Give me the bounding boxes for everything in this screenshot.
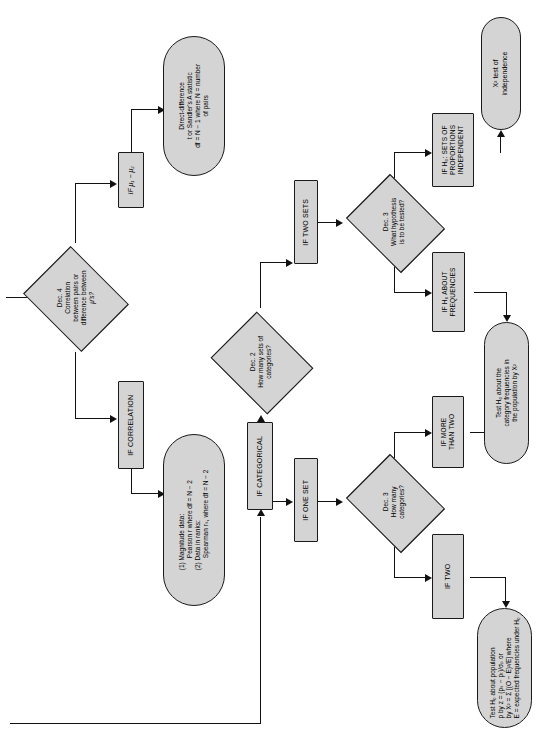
if-h0-prop-line1: IF H₀: SETS OF	[441, 125, 448, 174]
connector-dec3h-to-prop-2	[394, 152, 426, 153]
terminator-population-proportion[interactable]: Test H₀ about population p by z = (pₛ − …	[477, 608, 532, 728]
label-if-correlation[interactable]: IF CORRELATION	[118, 381, 144, 469]
connector-iftwo-to-pop-2	[505, 577, 506, 602]
connector-bottom-return-up	[260, 517, 261, 724]
if-h0-prop-line2: PROPORTIONS	[449, 125, 456, 175]
dec2-line3: categories?	[265, 345, 272, 379]
pop-line1: Test H₀ about population	[489, 648, 496, 719]
if-correlation-text: IF CORRELATION	[127, 394, 136, 455]
arrowhead-prop	[425, 149, 432, 157]
label-if-one-set[interactable]: IF ONE SET	[294, 458, 318, 542]
catfreq-line1: Test H₀ about the	[495, 368, 502, 418]
if-h0-freq-line1: IF H₀ ABOUT	[441, 272, 448, 313]
arrowhead-catfreq	[503, 315, 511, 322]
correlation-tests-line1: (1) Magnitude data:	[178, 514, 185, 570]
flowchart-canvas: Dec. 4 Correlation between pairs or diff…	[0, 0, 545, 747]
connector-prop-to-chi	[500, 137, 501, 153]
correlation-tests-line4: Spearman rₛ, where df = N − 2	[202, 470, 210, 571]
dec3c-line1: Dec. 3	[382, 493, 389, 512]
connector-dec4-to-ifcorr	[75, 352, 76, 419]
arrowhead-ifcategorical	[257, 509, 265, 516]
connector-dec3c-to-more-2	[394, 432, 426, 433]
decision-dec-4[interactable]: Dec. 4 Correlation between pairs or diff…	[29, 243, 121, 353]
connector-freq-to-catfreq-2	[506, 292, 507, 316]
connector-dec2-to-twosets	[260, 262, 261, 308]
arrowhead-iftwo	[425, 574, 432, 582]
connector-dec4-to-ifcorr-2	[75, 418, 111, 419]
decision-dec-2[interactable]: Dec. 2 How many sets of categories?	[216, 308, 306, 416]
dec4-line3: between pairs or	[71, 274, 78, 322]
if-h0-freq-line2: FREQUENCIES	[449, 267, 456, 316]
decision-dec-3-categories[interactable]: Dec. 3 How many categories?	[349, 450, 439, 554]
dec3c-line3: categories?	[398, 485, 405, 519]
connector-dec3h-to-freq-2	[394, 292, 426, 293]
dec2-line1: Dec. 2	[249, 353, 256, 372]
if-one-set-text: IF ONE SET	[302, 480, 311, 521]
if-mu-difference-text: IF μ₁ − μ₂	[127, 166, 136, 195]
arrowhead-dec3c	[336, 498, 343, 506]
label-if-two[interactable]: IF TWO	[432, 534, 464, 619]
dec3h-line3: is to be tested?	[398, 200, 405, 244]
connector-dec4-to-if-mu-2	[75, 183, 111, 184]
terminator-chi-square-independence[interactable]: X² test of independence	[481, 17, 521, 130]
label-if-mu-difference[interactable]: IF μ₁ − μ₂	[118, 152, 144, 208]
catfreq-line3: the population by X²	[510, 364, 517, 422]
dec2-line2: How many sets of	[257, 336, 264, 388]
if-two-sets-text: IF TWO SETS	[302, 199, 311, 246]
pop-line3: by X² = Σ [(O − E)²/E] where	[505, 638, 512, 719]
label-if-categorical[interactable]: IF CATEGORICAL	[247, 422, 273, 510]
arrowhead-ifcorr	[110, 415, 117, 423]
connector-dec2-to-twosets-2	[260, 262, 287, 263]
direct-difference-line3: df = N − 1 where N = number	[194, 64, 201, 148]
terminator-category-frequencies[interactable]: Test H₀ about the category frequencies i…	[484, 322, 529, 464]
connector-dec3c-to-iftwo-2	[394, 577, 426, 578]
chi-independence-line2: independence	[501, 52, 508, 96]
arrowhead-dec2	[257, 415, 265, 422]
label-if-more-than-two[interactable]: IF MORE THAN TWO	[432, 396, 464, 468]
decision-dec-3-hypothesis[interactable]: Dec. 3 What hypothesis is to be tested?	[349, 170, 439, 274]
arrowhead-freq	[425, 289, 432, 297]
connector-freq-to-catfreq	[474, 292, 507, 293]
arrowhead-dec3h	[336, 219, 343, 227]
direct-difference-line4: of pairs	[202, 95, 209, 116]
chi-independence-line1: X² test of	[492, 60, 499, 88]
dec3h-line2: What hypothesis	[390, 198, 397, 246]
if-more-line1: IF MORE	[440, 418, 447, 446]
connector-ifcorr-to-tests-2	[131, 493, 159, 494]
dec3h-line1: Dec. 3	[382, 213, 389, 232]
pop-line2: p by z = (pₛ − pₜ)/σₚ or	[497, 653, 504, 718]
connector-ifmu-to-directdiff	[131, 109, 132, 152]
terminator-correlation-tests[interactable]: (1) Magnitude data: Pearson r where df =…	[163, 434, 225, 606]
connector-ifmu-to-directdiff-2	[131, 109, 159, 110]
arrowhead-twosets	[286, 259, 293, 267]
arrowhead-chi	[497, 130, 505, 137]
arrowhead-pop	[502, 601, 510, 608]
connector-dec4-to-if-mu	[75, 183, 76, 243]
arrowhead-more	[425, 429, 432, 437]
dec4-line5: μ's?	[87, 292, 94, 304]
connector-iftwo-to-pop	[470, 577, 506, 578]
if-h0-prop-line3: INDEPENDENT	[457, 126, 464, 175]
terminator-direct-difference[interactable]: Direct-difference t or Sandler's A stati…	[163, 36, 225, 176]
connector-bottom-return	[10, 723, 261, 724]
correlation-tests-line3: (2) Data in ranks:	[194, 520, 201, 570]
dec4-line2: Correlation	[63, 282, 70, 314]
direct-difference-line1: Direct-difference	[178, 82, 185, 130]
label-if-h0-proportions-independent[interactable]: IF H₀: SETS OF PROPORTIONS INDEPENDENT	[432, 113, 474, 187]
arrowhead-if-mu	[110, 180, 117, 188]
label-if-two-sets[interactable]: IF TWO SETS	[294, 180, 318, 264]
if-two-text: IF TWO	[444, 564, 453, 590]
if-categorical-text: IF CATEGORICAL	[256, 436, 265, 497]
dec3c-line2: How many	[390, 487, 397, 518]
correlation-tests-line2: Pearson r where df = N − 2	[186, 480, 194, 570]
dec4-line1: Dec. 4	[55, 289, 62, 308]
if-more-line2: THAN TWO	[448, 414, 455, 450]
label-if-h0-about-frequencies[interactable]: IF H₀ ABOUT FREQUENCIES	[432, 252, 465, 332]
direct-difference-line2: t or Sandler's A statistic	[186, 73, 193, 140]
arrowhead-oneset	[286, 498, 293, 506]
dec4-line4: difference between	[79, 271, 86, 326]
pop-line4: E = expected frequencies under H₀	[512, 617, 519, 718]
catfreq-line2: category frequencies in	[503, 359, 510, 426]
